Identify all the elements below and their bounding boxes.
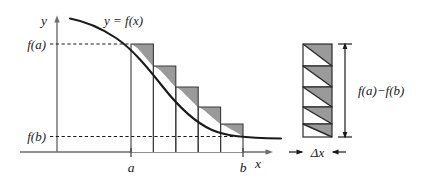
f-of-a-label: f(a) (27, 37, 46, 52)
delta-x-label: Δx (310, 145, 325, 160)
stacked-column-group (303, 44, 332, 137)
y-axis-arrowhead (54, 16, 59, 23)
tick-label-b: b (240, 160, 247, 175)
curve-equation-label: y = f(x) (102, 13, 143, 28)
figure-container: y x y = f(x) f(a) f(b) a b (0, 0, 429, 196)
stack-height-label: f(a)−f(b) (358, 83, 404, 98)
width-measure-arrow-right (332, 149, 339, 154)
tick-label-a: a (128, 160, 135, 175)
height-measure-group (338, 43, 352, 139)
f-of-b-label: f(b) (27, 129, 46, 144)
width-measure-arrow-left (297, 149, 304, 154)
riemann-rectangles-group (131, 44, 243, 152)
x-axis-arrowhead (266, 149, 274, 154)
calculus-figure: y x y = f(x) f(a) f(b) a b (0, 0, 429, 196)
x-axis-label: x (254, 156, 261, 171)
y-axis-label: y (39, 13, 47, 28)
